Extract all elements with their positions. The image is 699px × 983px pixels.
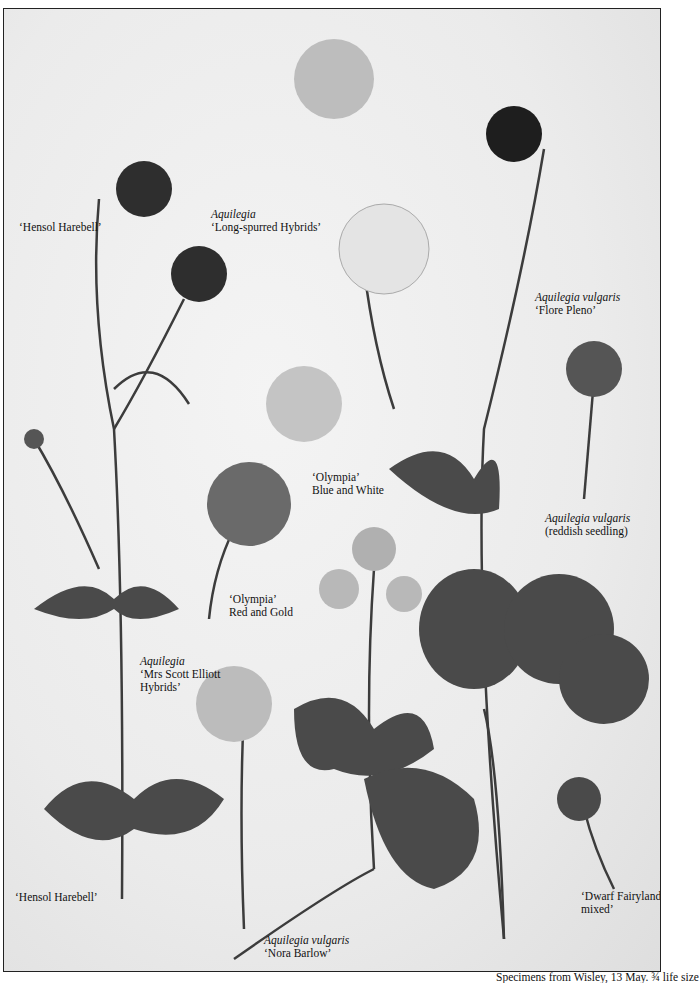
label-line: ‘Nora Barlow’ [264, 947, 331, 959]
label-line: Aquilegia vulgaris [264, 934, 349, 946]
label-line: mixed’ [581, 903, 614, 915]
plate-caption: Specimens from Wisley, 13 May. ¾ life si… [496, 971, 699, 983]
label-olympia-blue-white: ‘Olympia’ Blue and White [312, 471, 384, 497]
label-line: ‘Dwarf Fairyland [581, 890, 661, 902]
label-olympia-red-gold: ‘Olympia’ Red and Gold [229, 593, 293, 619]
label-line: Hybrids’ [140, 681, 181, 693]
label-nora-barlow: Aquilegia vulgaris ‘Nora Barlow’ [264, 934, 349, 960]
label-line: ‘Hensol Harebell’ [19, 221, 102, 233]
label-hensol-harebell-top: ‘Hensol Harebell’ [19, 221, 102, 234]
label-reddish-seedling: Aquilegia vulgaris (reddish seedling) [545, 512, 630, 538]
label-hensol-harebell-bottom: ‘Hensol Harebell’ [15, 891, 98, 904]
label-line: ‘Olympia’ [312, 471, 360, 483]
label-line: ‘Olympia’ [229, 593, 277, 605]
label-line: Aquilegia [140, 655, 185, 667]
label-line: Blue and White [312, 484, 384, 496]
label-long-spurred-hybrids: Aquilegia ‘Long-spurred Hybrids’ [211, 208, 321, 234]
label-line: ‘Mrs Scott Elliott [140, 668, 221, 680]
label-dwarf-fairyland: ‘Dwarf Fairyland mixed’ [581, 890, 661, 916]
label-line: (reddish seedling) [545, 525, 628, 537]
label-flore-pleno: Aquilegia vulgaris ‘Flore Pleno’ [535, 291, 620, 317]
label-line: ‘Hensol Harebell’ [15, 891, 98, 903]
specimen-plate: ‘Hensol Harebell’ Aquilegia ‘Long-spurre… [3, 8, 661, 972]
label-line: Aquilegia [211, 208, 256, 220]
label-line: ‘Long-spurred Hybrids’ [211, 221, 321, 233]
label-mrs-scott-elliott: Aquilegia ‘Mrs Scott Elliott Hybrids’ [140, 655, 221, 694]
label-line: Red and Gold [229, 606, 293, 618]
label-line: Aquilegia vulgaris [535, 291, 620, 303]
label-line: Aquilegia vulgaris [545, 512, 630, 524]
label-line: ‘Flore Pleno’ [535, 304, 596, 316]
